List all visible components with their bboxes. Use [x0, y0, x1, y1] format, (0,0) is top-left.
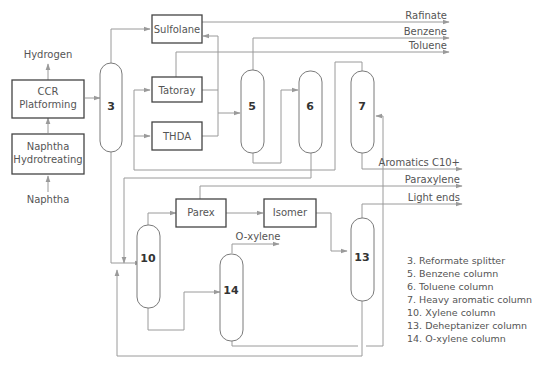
isomer-to-c13-line — [315, 213, 347, 251]
c7-feed-line — [376, 116, 383, 245]
column-10 — [137, 225, 160, 308]
c10-to-parex-line — [148, 213, 176, 225]
legend-item: 14. O-xylene column — [407, 333, 506, 344]
o-xylene-label: O-xylene — [235, 231, 280, 242]
column-7-label: 7 — [358, 100, 366, 113]
column-3-label: 3 — [107, 100, 115, 113]
ccr-label-line2: Platforming — [19, 99, 77, 110]
nht-label-line2: Hydrotreating — [13, 154, 82, 165]
column-5-label: 5 — [248, 100, 256, 113]
distillation-columns: 3 5 6 7 10 13 14 — [100, 63, 374, 341]
column-13-label: 13 — [354, 251, 369, 264]
legend-item: 5. Benzene column — [407, 268, 498, 279]
column-14 — [220, 254, 243, 341]
aromatics-c10-label: Aromatics C10+ — [379, 157, 460, 168]
legend-item: 10. Xylene column — [407, 307, 496, 318]
light-ends-label: Light ends — [408, 192, 460, 203]
column-14-label: 14 — [223, 284, 239, 297]
legend-item: 13. Deheptanizer column — [407, 320, 527, 331]
tatoray-label: Tatoray — [158, 85, 196, 96]
nht-label-line1: Naphtha — [27, 141, 70, 152]
column-legend: 3. Reformate splitter 5. Benzene column … — [407, 255, 532, 344]
legend-item: 7. Heavy aromatic column — [407, 294, 532, 305]
benzene-label: Benzene — [404, 26, 447, 37]
column-6-label: 6 — [306, 100, 314, 113]
toluene-label: Toluene — [408, 40, 447, 51]
parex-label: Parex — [187, 207, 215, 218]
light-ends-line — [362, 204, 462, 218]
naphtha-label: Naphtha — [27, 194, 70, 205]
ccr-label-line1: CCR — [38, 86, 59, 97]
sulfolane-label: Sulfolane — [154, 24, 201, 35]
c3-to-sulfolane-line — [111, 29, 150, 63]
hydrogen-label: Hydrogen — [24, 49, 73, 60]
c14-bottom-line — [232, 340, 358, 346]
thda-out-to-sulfolane-line — [202, 36, 218, 136]
rafinate-label: Rafinate — [405, 10, 447, 21]
paraxylene-label: Paraxylene — [405, 174, 460, 185]
column-10-label: 10 — [140, 252, 156, 265]
isomer-label: Isomer — [273, 207, 308, 218]
legend-item: 3. Reformate splitter — [407, 255, 505, 266]
process-flow-diagram: CCR Platforming Naphtha Hydrotreating Su… — [0, 0, 533, 367]
thda-label: THDA — [162, 131, 191, 142]
o-xylene-line — [232, 244, 279, 253]
legend-item: 6. Toluene column — [407, 281, 493, 292]
